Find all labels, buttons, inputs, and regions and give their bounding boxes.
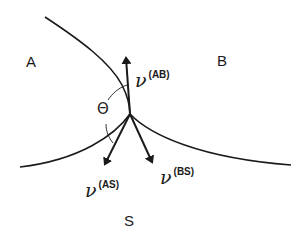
triple-junction-diagram bbox=[0, 0, 305, 235]
region-s-label: S bbox=[124, 212, 134, 229]
vector-bs-arrow bbox=[130, 114, 152, 162]
vector-ab-superscript: (AB) bbox=[149, 69, 170, 80]
vector-bs-superscript: (BS) bbox=[174, 166, 195, 177]
region-b-label: B bbox=[217, 52, 227, 69]
interface-ab-curve bbox=[45, 17, 130, 114]
vector-ab-arrow bbox=[126, 58, 130, 114]
vector-bs-symbol: ν bbox=[160, 166, 172, 188]
vector-as-superscript: (AS) bbox=[99, 179, 120, 190]
angle-theta-arc bbox=[108, 85, 127, 100]
vector-ab-symbol: ν bbox=[135, 69, 147, 91]
vector-as-label: ν(AS) bbox=[85, 180, 119, 200]
vector-as-symbol: ν bbox=[85, 179, 97, 201]
region-a-label: A bbox=[26, 53, 36, 70]
angle-theta-label: Θ bbox=[97, 100, 109, 118]
vector-as-arrow bbox=[105, 114, 130, 164]
interface-bs-curve bbox=[130, 114, 291, 165]
vector-ab-label: ν(AB) bbox=[135, 70, 170, 90]
interface-as-curve bbox=[20, 114, 130, 167]
vector-bs-label: ν(BS) bbox=[160, 167, 194, 187]
